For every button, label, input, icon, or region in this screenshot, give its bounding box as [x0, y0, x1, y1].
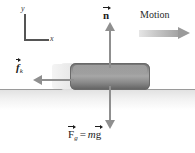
- ground-surface-shading: [0, 90, 195, 110]
- vector-arrow-overbar: [95, 125, 103, 129]
- gravity-acceleration-symbol: g: [96, 129, 102, 140]
- gravity-force-arrow-head: [105, 120, 115, 129]
- friction-force-subscript: k: [20, 67, 23, 75]
- gravity-force-arrow-shaft: [109, 86, 111, 122]
- friction-force-symbol: f: [16, 62, 20, 73]
- friction-force-arrow-head: [33, 75, 42, 85]
- normal-force-symbol: n: [103, 10, 109, 21]
- gravity-equation: Fg=mg: [68, 128, 101, 142]
- x-axis-label: x: [50, 34, 54, 43]
- y-axis-label: y: [21, 4, 25, 13]
- normal-force-arrow-shaft: [109, 28, 111, 68]
- physics-free-body-diagram: y x Motion n fk Fg=mg: [0, 0, 195, 153]
- equals-sign: =: [78, 128, 88, 140]
- y-axis-line: [24, 14, 26, 41]
- motion-label: Motion: [140, 9, 169, 20]
- motion-arrow-head: [178, 27, 190, 39]
- normal-force-label: n: [103, 9, 109, 21]
- vector-arrow-overbar: [68, 125, 76, 129]
- x-axis-line: [24, 39, 49, 41]
- gravity-force-symbol: F: [68, 129, 74, 140]
- mass-symbol: m: [88, 128, 96, 140]
- friction-force-arrow-shaft: [42, 79, 74, 81]
- normal-force-arrow-head: [105, 22, 115, 31]
- friction-force-label: fk: [16, 61, 23, 75]
- vector-arrow-overbar: [103, 6, 111, 10]
- vector-arrow-overbar: [16, 58, 22, 62]
- motion-arrow-body: [139, 30, 179, 37]
